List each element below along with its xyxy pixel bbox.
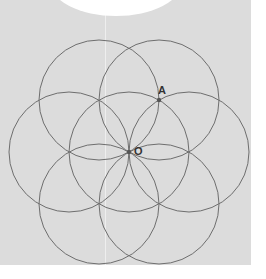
point-o: [127, 150, 131, 154]
point-a: [157, 98, 161, 102]
label-o: O: [134, 145, 143, 157]
diagram-canvas: [0, 0, 266, 279]
label-a: A: [158, 84, 166, 96]
